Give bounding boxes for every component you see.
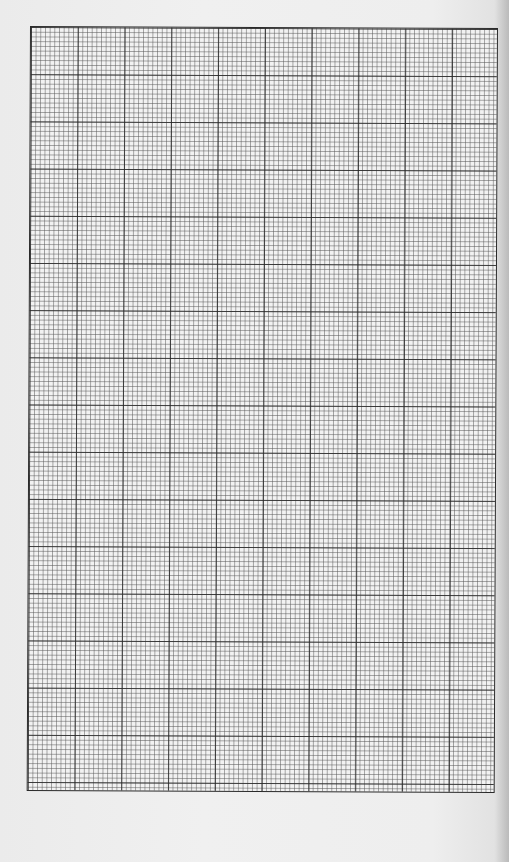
grid-lines [27,26,498,793]
graph-paper-sheet: graph-paper [27,26,498,793]
